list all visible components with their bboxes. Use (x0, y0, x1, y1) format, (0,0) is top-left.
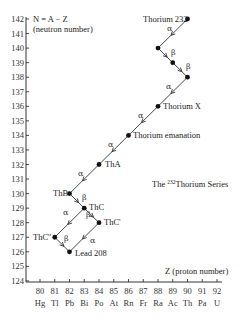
y-tick-label: 140 (11, 43, 24, 53)
element-symbol: Bi (80, 298, 89, 308)
x-tick-label: 84 (95, 286, 104, 296)
alpha-label: α (166, 82, 172, 91)
nuclide-point (67, 249, 72, 254)
element-symbol: At (110, 298, 119, 308)
nuclide-point (156, 46, 161, 51)
element-symbol: Ac (168, 298, 178, 308)
y-tick-label: 138 (11, 72, 24, 82)
x-tick-label: 89 (169, 286, 178, 296)
nuclide-point (97, 162, 102, 167)
beta-label: β (64, 234, 69, 243)
x-tick-label: 83 (80, 286, 89, 296)
alpha-label: α (138, 111, 144, 120)
y-tick-label: 129 (11, 203, 24, 213)
nuclide-point (52, 235, 57, 240)
label-thc-prime: ThC' (104, 217, 121, 227)
x-tick-label: 80 (36, 286, 45, 296)
label-thorium-emanation: Thorium emanation (133, 130, 201, 140)
x-tick-label: 82 (65, 286, 74, 296)
y-tick-label: 136 (11, 101, 24, 111)
x-axis-ticks: 80Hg81Tl82Pb83Bi84Po85At86Rn87Fr88Ra89Ac… (35, 279, 221, 308)
label-thc: ThC (89, 202, 104, 212)
x-tick-label: 92 (213, 286, 222, 296)
y-tick-label: 131 (11, 174, 24, 184)
y-tick-label: 135 (11, 116, 24, 126)
y-tick-label: 132 (11, 160, 24, 170)
y-tick-label: 126 (11, 247, 24, 257)
x-tick-label: 86 (124, 286, 133, 296)
y-tick-label: 141 (11, 29, 24, 39)
y-axis-label: N = A − Z (33, 14, 68, 24)
beta-label: β (86, 210, 91, 219)
nuclide-point (185, 75, 190, 80)
y-tick-label: 128 (11, 218, 24, 228)
series-title: The 232Thorium Series (152, 179, 228, 189)
element-symbol: Po (95, 298, 104, 308)
y-tick-label: 125 (11, 261, 24, 271)
element-symbol: Rn (124, 298, 135, 308)
y-axis-sublabel: (neutron number) (33, 24, 93, 34)
element-symbol: Ra (153, 298, 163, 308)
y-tick-label: 137 (11, 87, 24, 97)
label-lead-208: Lead 208 (75, 248, 107, 258)
nuclide-point (126, 133, 131, 138)
element-symbol: Hg (35, 298, 46, 308)
x-tick-label: 85 (110, 286, 119, 296)
element-symbol: Th (183, 298, 193, 308)
y-tick-label: 139 (11, 58, 24, 68)
x-tick-label: 81 (51, 286, 60, 296)
element-symbol: Pa (198, 298, 207, 308)
label-tha: ThA (105, 159, 121, 169)
y-tick-label: 130 (11, 189, 24, 199)
y-tick-label: 124 (11, 276, 25, 286)
element-symbol: U (214, 298, 220, 308)
alpha-label: α (63, 208, 69, 217)
x-tick-label: 88 (154, 286, 163, 296)
label-thb: ThB (53, 188, 68, 198)
x-tick-label: 87 (139, 286, 148, 296)
y-tick-label: 133 (11, 145, 24, 155)
label-thorium-232: Thorium 232 (143, 14, 188, 24)
beta-label: β (186, 62, 191, 71)
element-symbol: Fr (139, 298, 147, 308)
x-axis-label: Z (proton number) (165, 266, 228, 276)
nuclide-point (170, 60, 175, 65)
nuclide-point (97, 220, 102, 225)
label-thc-double-prime: ThC'' (33, 232, 52, 242)
x-tick-label: 90 (183, 286, 192, 296)
nuclide-point (156, 104, 161, 109)
beta-label: β (82, 193, 87, 202)
element-symbol: Tl (51, 298, 59, 308)
y-tick-label: 142 (11, 14, 24, 24)
alpha-label: α (78, 169, 84, 178)
alpha-label: α (108, 140, 114, 149)
alpha-label: α (167, 24, 173, 33)
x-tick-label: 91 (198, 286, 207, 296)
y-tick-label: 127 (11, 232, 24, 242)
label-thorium-x: Thorium X (163, 101, 201, 111)
beta-label: β (171, 48, 176, 57)
y-tick-label: 134 (11, 130, 25, 140)
element-symbol: Pb (65, 298, 74, 308)
alpha-label: α (90, 236, 96, 245)
decay-series-diagram: 1421411401391381371361351341331321311301… (0, 0, 245, 320)
